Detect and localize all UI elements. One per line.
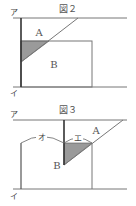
figure-2: 図２ ア A B イ — [10, 4, 127, 98]
figure-3-region-b: B — [53, 160, 60, 171]
diagram-canvas: 図２ ア A B イ 図３ ア — [0, 0, 136, 206]
figure-3-label-a: ア — [10, 110, 18, 119]
figure-2-region-a: A — [34, 27, 43, 38]
figure-3-label-i: イ — [10, 192, 18, 201]
figure-2-title: 図２ — [59, 4, 77, 14]
figure-3-arc-e-label: エ — [74, 134, 82, 143]
figure-3: 図３ ア オ エ A B イ — [10, 105, 127, 201]
figure-2-label-a: ア — [10, 8, 18, 17]
figure-2-diagonal — [21, 18, 78, 62]
figure-2-label-i: イ — [10, 89, 18, 98]
figure-3-arc-o-label: オ — [38, 133, 46, 142]
figure-3-region-a: A — [91, 125, 100, 136]
figure-2-region-b: B — [50, 59, 57, 70]
figure-3-title: 図３ — [59, 105, 77, 115]
